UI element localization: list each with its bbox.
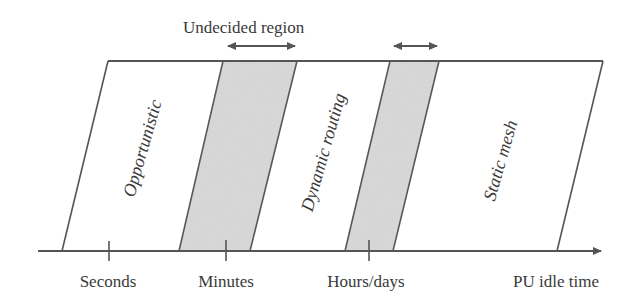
axis-label-pu-idle-time: PU idle time bbox=[513, 272, 599, 291]
undecided-band-2 bbox=[345, 61, 439, 251]
region-label-dynamic-routing: Dynamic routing bbox=[297, 91, 350, 215]
tick-label-seconds: Seconds bbox=[80, 272, 137, 291]
tick-label-minutes: Minutes bbox=[198, 272, 254, 291]
idle-time-routing-diagram: Undecided region Opportunistic Dynamic r… bbox=[0, 0, 640, 304]
region-label-static-mesh: Static mesh bbox=[479, 118, 521, 203]
tick-label-hours-days: Hours/days bbox=[327, 272, 404, 291]
region-label-opportunistic: Opportunistic bbox=[119, 98, 166, 200]
undecided-band-1 bbox=[179, 61, 297, 251]
time-axis bbox=[38, 240, 601, 261]
undecided-region-label: Undecided region bbox=[183, 18, 305, 37]
